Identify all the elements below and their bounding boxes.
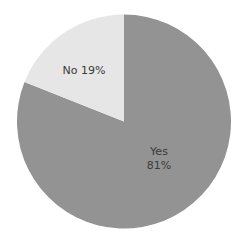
pie-slices [17,15,231,229]
pie-chart: No 19% Yes 81% [0,0,246,242]
label-yes-name: Yes [149,145,168,158]
label-yes-pct: 81% [147,159,171,172]
label-no: No 19% [63,64,106,77]
